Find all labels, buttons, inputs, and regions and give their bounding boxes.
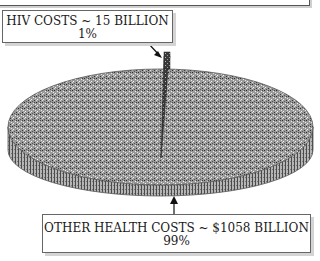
hiv-callout-box: HIV COSTS ~ 15 BILLION 1% <box>2 10 173 43</box>
pie-slice-hiv-side <box>164 52 170 69</box>
other-callout-box: OTHER HEALTH COSTS ~ $1058 BILLION 99% <box>42 214 311 253</box>
other-arrow-head <box>170 196 178 204</box>
other-label-percent: 99% <box>43 235 310 248</box>
pie-slice-other <box>8 69 313 185</box>
hiv-arrow-head <box>154 51 162 58</box>
hiv-label-percent: 1% <box>3 28 172 41</box>
